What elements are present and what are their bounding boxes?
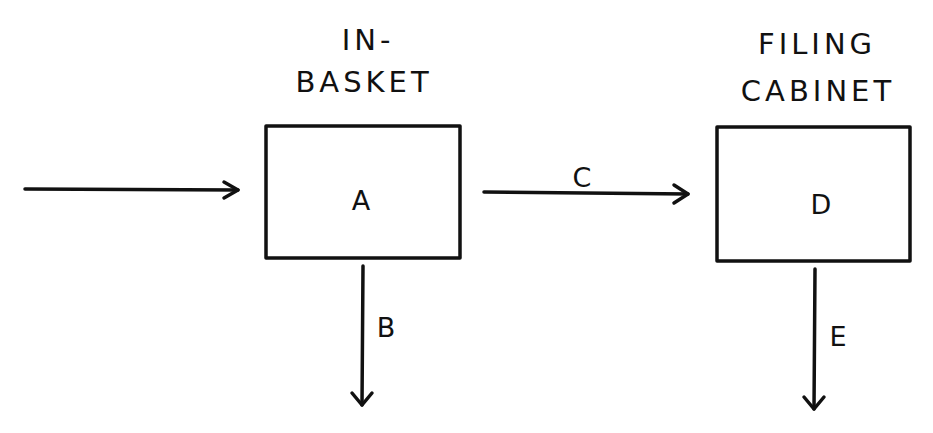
arrow-e bbox=[804, 269, 824, 409]
in-basket-title-line2: BASKET bbox=[295, 68, 432, 97]
arrow-b bbox=[352, 266, 372, 405]
input-arrow bbox=[25, 182, 238, 198]
edge-c-label: C bbox=[573, 164, 592, 191]
in-basket-title-line1: IN- bbox=[342, 26, 395, 55]
edge-e-label: E bbox=[829, 323, 846, 350]
node-a-label: A bbox=[352, 187, 370, 214]
diagram-canvas bbox=[0, 0, 933, 433]
filing-cabinet-title-line2: CABINET bbox=[741, 77, 895, 106]
filing-cabinet-title-line1: FILING bbox=[758, 30, 876, 59]
edge-b-label: B bbox=[377, 314, 396, 341]
node-d-label: D bbox=[811, 191, 832, 218]
